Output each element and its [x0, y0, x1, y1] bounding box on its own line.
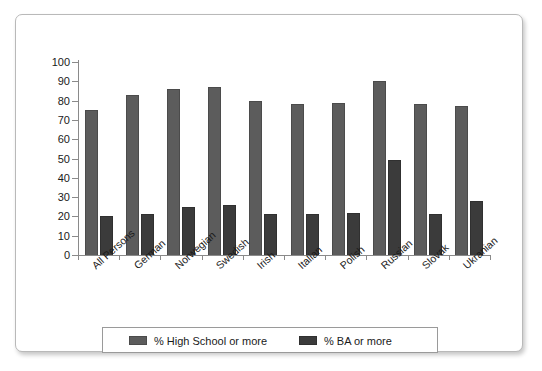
legend-item: % High School or more — [129, 334, 267, 347]
bar-group — [202, 62, 243, 255]
y-axis-tick-label: 20 — [20, 211, 70, 222]
bar — [167, 89, 180, 255]
x-axis-tick — [243, 255, 244, 260]
legend-swatch-icon — [299, 336, 317, 345]
y-axis-tick-label: 70 — [20, 115, 70, 126]
legend-label: % High School or more — [154, 335, 267, 347]
bar-group — [366, 62, 407, 255]
bar — [373, 81, 386, 255]
legend-item: % BA or more — [299, 334, 392, 347]
x-axis-tick — [202, 255, 203, 260]
x-axis-tick — [284, 255, 285, 260]
x-axis-tick — [325, 255, 326, 260]
bar-group — [325, 62, 366, 255]
y-axis-tick-label: 60 — [20, 134, 70, 145]
x-axis-tick — [160, 255, 161, 260]
y-axis-tick-label: 40 — [20, 173, 70, 184]
bar — [249, 101, 262, 255]
y-axis-tick-label: 0 — [20, 250, 70, 261]
bar — [291, 104, 304, 255]
legend-swatch-icon — [129, 336, 147, 345]
legend-label: % BA or more — [324, 335, 392, 347]
y-axis-tick-label: 50 — [20, 154, 70, 165]
bar — [85, 110, 98, 255]
bar-group — [284, 62, 325, 255]
bar — [388, 160, 401, 255]
bar-group — [119, 62, 160, 255]
bar — [414, 104, 427, 255]
chart-legend: % High School or more% BA or more — [102, 327, 438, 353]
bar — [455, 106, 468, 255]
plot-wrap: 1009080706050403020100 All PersonsGerman… — [16, 15, 522, 351]
y-axis-tick-label: 30 — [20, 192, 70, 203]
y-axis-tick-label: 100 — [20, 57, 70, 68]
chart-figure-frame: 1009080706050403020100 All PersonsGerman… — [15, 14, 523, 352]
plot-area — [78, 62, 488, 255]
x-axis-tick — [366, 255, 367, 260]
bar — [332, 103, 345, 255]
x-axis-tick — [78, 255, 79, 260]
y-axis-tick-label: 80 — [20, 96, 70, 107]
y-axis-tick-label: 10 — [20, 231, 70, 242]
y-axis-tick-label: 90 — [20, 76, 70, 87]
x-axis-tick — [119, 255, 120, 260]
bar-group — [408, 62, 449, 255]
bar-group — [449, 62, 490, 255]
x-axis-tick — [408, 255, 409, 260]
x-axis-tick — [490, 255, 491, 260]
bar — [264, 214, 277, 255]
x-axis-tick — [449, 255, 450, 260]
bar-group — [243, 62, 284, 255]
bar-group — [78, 62, 119, 255]
bar-group — [160, 62, 201, 255]
